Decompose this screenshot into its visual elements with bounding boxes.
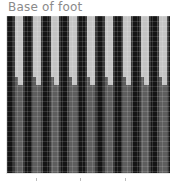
x-tick: [36, 178, 37, 181]
y-axis-line: [6, 16, 7, 174]
dark-stripe: [115, 16, 121, 173]
x-tick: [80, 178, 81, 181]
dark-stripe: [169, 16, 170, 173]
dark-stripe: [151, 16, 157, 173]
x-axis-line: [7, 173, 170, 174]
dark-stripe: [25, 16, 31, 173]
dark-stripe: [43, 16, 49, 173]
x-tick: [125, 178, 126, 181]
dark-stripe: [61, 16, 67, 173]
foot-pressure-map: [7, 16, 170, 173]
dark-stripe: [97, 16, 103, 173]
dark-stripe: [7, 16, 13, 173]
chart-title: Base of foot: [8, 0, 82, 15]
dark-stripe: [133, 16, 139, 173]
dark-stripe: [79, 16, 85, 173]
